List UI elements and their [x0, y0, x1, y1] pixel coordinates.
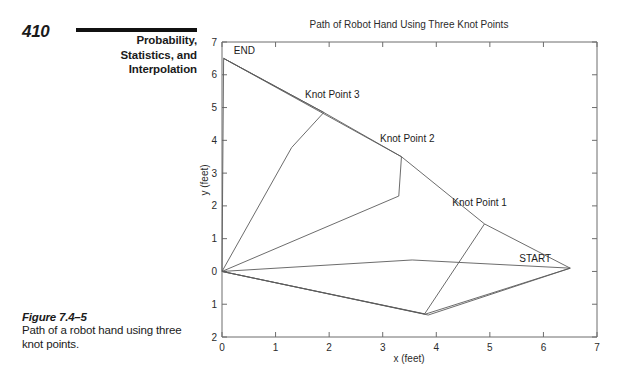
y-tick-label: 1: [211, 233, 217, 244]
figure-caption-label: Figure 7.4–5: [22, 311, 190, 323]
y-tick-label: 1: [211, 299, 217, 310]
robot-path-path-c: [222, 58, 570, 315]
annotation-knot1: Knot Point 1: [452, 197, 507, 208]
x-tick-label: 2: [326, 342, 332, 353]
path-series: [222, 58, 570, 315]
annotation-start: START: [519, 253, 551, 264]
y-axis-label: y (feet): [199, 164, 210, 195]
y-tick-label: 0: [211, 266, 217, 277]
robot-path-path-d: [222, 224, 570, 314]
page-header: 410 Probability, Statistics, and Interpo…: [22, 14, 197, 84]
robot-path-chart: Path of Robot Hand Using Three Knot Poin…: [196, 10, 620, 368]
axis-frame: [222, 42, 597, 337]
figure-caption-text: Path of a robot hand using three knot po…: [22, 324, 190, 351]
robot-path-path-a: [224, 58, 571, 268]
x-tick-label: 3: [380, 342, 386, 353]
x-tick-label: 6: [541, 342, 547, 353]
y-tick-label: 4: [211, 135, 217, 146]
annotation-knot2: Knot Point 2: [380, 133, 435, 144]
textbook-page: 410 Probability, Statistics, and Interpo…: [0, 0, 628, 378]
x-tick-label: 7: [594, 342, 600, 353]
x-tick-label: 1: [273, 342, 279, 353]
annotation-knot3: Knot Point 3: [305, 89, 360, 100]
x-tick-label: 5: [487, 342, 493, 353]
annotations: STARTENDKnot Point 1Knot Point 2Knot Poi…: [234, 45, 551, 263]
header-title-line-3: Interpolation: [22, 62, 197, 77]
y-tick-label: 2: [211, 200, 217, 211]
y-tick-label: 5: [211, 102, 217, 113]
y-tick-label: 6: [211, 69, 217, 80]
robot-path-path-b: [222, 58, 570, 314]
header-title: Probability, Statistics, and Interpolati…: [22, 33, 197, 77]
y-tick-label: 7: [211, 37, 217, 48]
chart-title: Path of Robot Hand Using Three Knot Poin…: [310, 19, 509, 30]
y-tick-label: 3: [211, 168, 217, 179]
figure-plot: Path of Robot Hand Using Three Knot Poin…: [196, 10, 620, 368]
annotation-end: END: [234, 45, 255, 56]
header-rule: [76, 28, 197, 32]
figure-caption: Figure 7.4–5 Path of a robot hand using …: [22, 311, 190, 351]
x-tick-label: 4: [434, 342, 440, 353]
x-axis-ticks: 01234567: [219, 42, 600, 353]
y-axis-ticks: 2101234567: [211, 37, 597, 343]
header-title-line-2: Statistics, and: [22, 48, 197, 63]
y-tick-label: 2: [211, 332, 217, 343]
header-title-line-1: Probability,: [22, 33, 197, 48]
x-tick-label: 0: [219, 342, 225, 353]
x-axis-label: x (feet): [393, 353, 424, 364]
